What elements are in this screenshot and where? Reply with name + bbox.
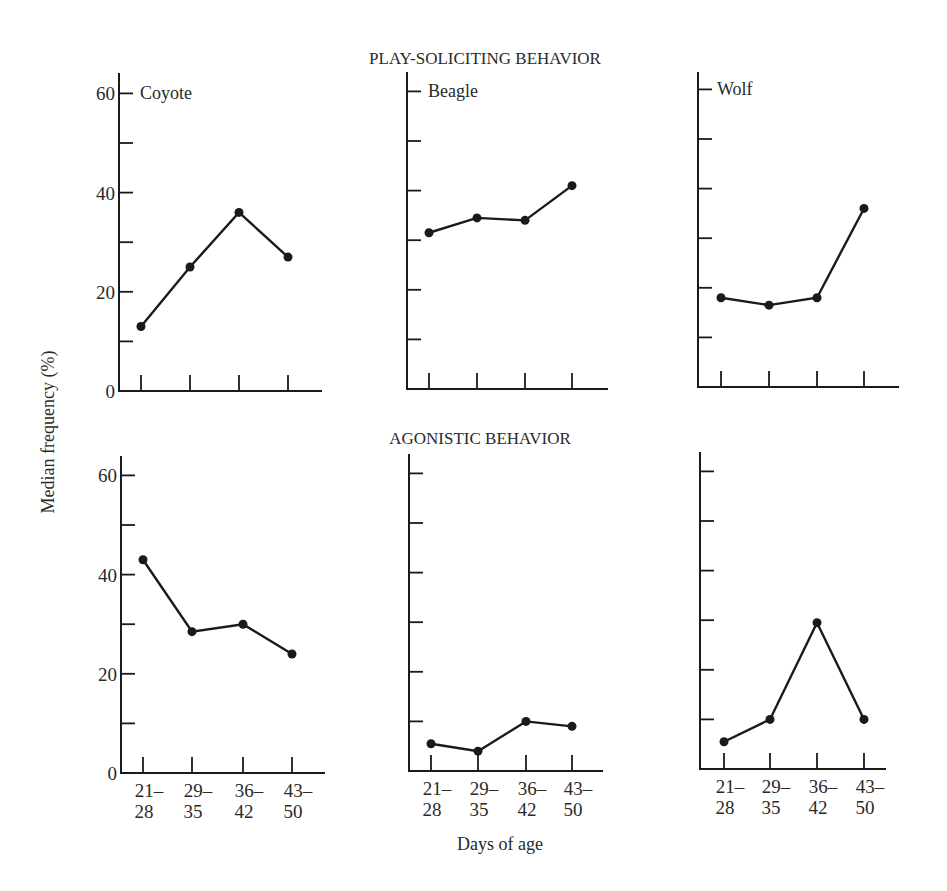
data-line [143, 560, 292, 654]
panel-agonistic-coyote: 020406021–2829–3536–4243–50 [98, 456, 325, 822]
x-tick-label: 35 [184, 801, 203, 822]
x-tick-label: 43– [564, 778, 593, 799]
data-point [139, 555, 148, 564]
data-point [568, 722, 577, 731]
row-title-play: PLAY-SOLICITING BEHAVIOR [369, 49, 602, 68]
x-tick-label: 43– [284, 780, 313, 801]
data-line [431, 721, 572, 751]
data-line [429, 186, 572, 233]
data-point [765, 301, 774, 310]
x-tick-label: 36– [809, 776, 838, 797]
row-title-agonistic: AGONISTIC BEHAVIOR [389, 429, 571, 448]
y-tick-label: 40 [96, 183, 115, 204]
x-tick-label: 43– [856, 776, 885, 797]
data-point [860, 715, 869, 724]
data-point [239, 620, 248, 629]
x-tick-label: 21– [716, 776, 745, 797]
species-label: Beagle [428, 81, 478, 101]
x-tick-label: 21– [135, 780, 164, 801]
data-point [568, 181, 577, 190]
data-point [425, 228, 434, 237]
y-axis-label: Median frequency (%) [38, 351, 59, 514]
y-tick-label: 60 [96, 83, 115, 104]
x-tick-label: 50 [564, 799, 583, 820]
panel-play-coyote: 0204060Coyote [96, 73, 322, 402]
data-point [717, 293, 726, 302]
x-tick-label: 35 [470, 799, 489, 820]
species-label: Coyote [140, 83, 192, 103]
x-tick-label: 36– [518, 778, 547, 799]
data-point [288, 649, 297, 658]
x-tick-label: 28 [135, 801, 154, 822]
data-point [137, 322, 146, 331]
data-point [521, 216, 530, 225]
data-point [860, 204, 869, 213]
panel-agonistic-beagle: 21–2829–3536–4243–50 [408, 454, 603, 820]
x-tick-label: 50 [284, 801, 303, 822]
x-tick-label: 28 [423, 799, 442, 820]
x-tick-label: 29– [184, 780, 213, 801]
y-tick-label: 0 [108, 763, 118, 784]
data-point [427, 739, 436, 748]
x-tick-label: 21– [423, 778, 452, 799]
data-point [766, 715, 775, 724]
panel-play-wolf: Wolf [697, 72, 899, 387]
data-point [188, 627, 197, 636]
x-tick-label: 28 [716, 797, 735, 818]
species-label: Wolf [717, 79, 753, 99]
data-line [141, 212, 288, 326]
data-point [284, 253, 293, 262]
x-tick-label: 29– [762, 776, 791, 797]
data-point [186, 263, 195, 272]
data-point [235, 208, 244, 217]
x-tick-label: 42 [809, 797, 828, 818]
panel-agonistic-wolf: 21–2829–3536–4243–50 [699, 452, 886, 818]
y-tick-label: 0 [106, 381, 116, 402]
y-tick-label: 20 [98, 664, 117, 685]
y-tick-label: 20 [96, 282, 115, 303]
data-point [474, 747, 483, 756]
x-tick-label: 36– [235, 780, 264, 801]
x-axis-label: Days of age [457, 834, 543, 854]
x-tick-label: 42 [235, 801, 254, 822]
data-line [724, 623, 864, 742]
x-tick-label: 50 [856, 797, 875, 818]
x-tick-label: 35 [762, 797, 781, 818]
data-point [522, 717, 531, 726]
data-point [720, 737, 729, 746]
panel-play-beagle: Beagle [406, 72, 608, 389]
figure: PLAY-SOLICITING BEHAVIOR AGONISTIC BEHAV… [0, 0, 947, 891]
data-line [721, 208, 864, 305]
y-tick-label: 60 [98, 465, 117, 486]
data-point [473, 213, 482, 222]
x-tick-label: 42 [518, 799, 537, 820]
y-tick-label: 40 [98, 565, 117, 586]
data-point [813, 618, 822, 627]
data-point [813, 293, 822, 302]
x-tick-label: 29– [470, 778, 499, 799]
